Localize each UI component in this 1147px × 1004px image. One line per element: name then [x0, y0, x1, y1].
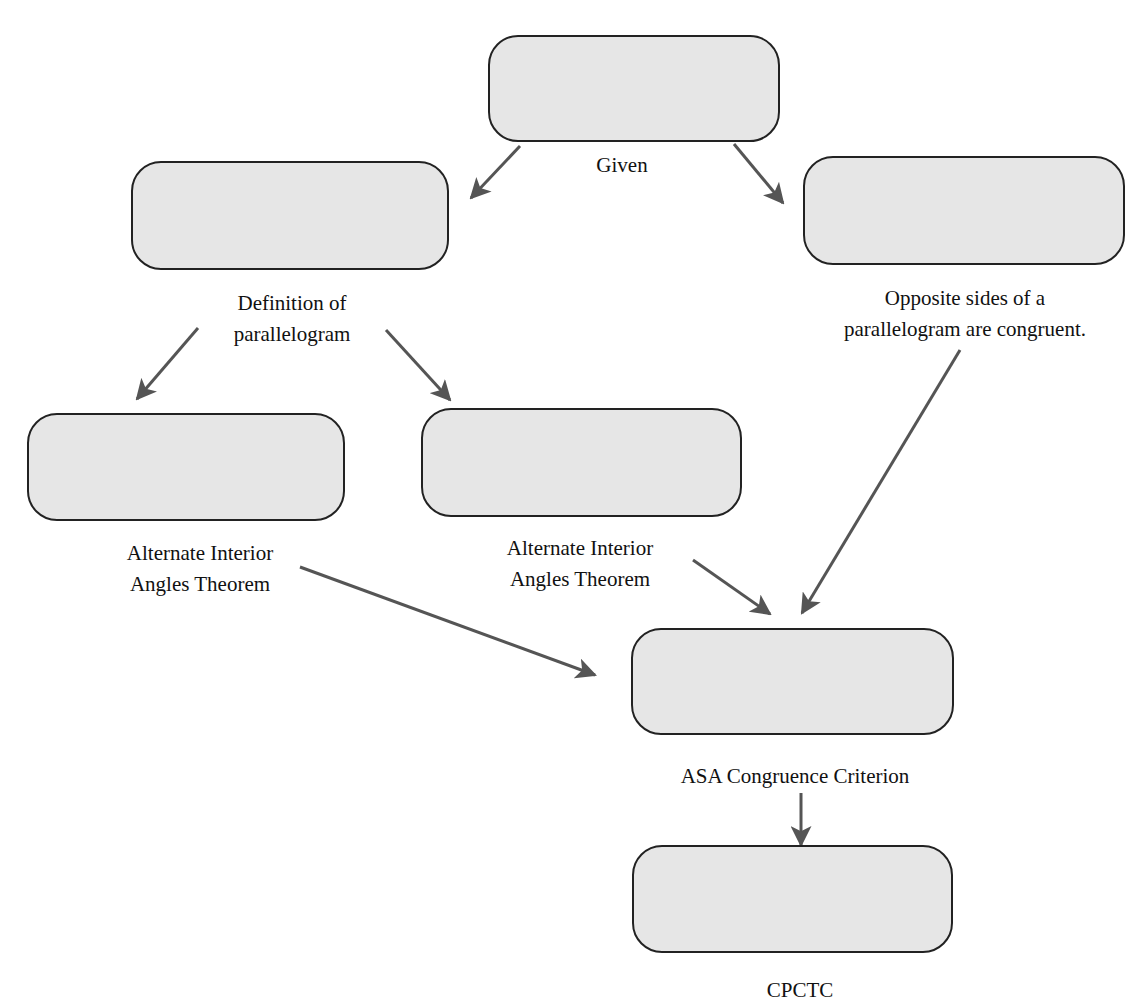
reason-line-1: Definition of [234, 288, 351, 319]
statement-box-asa[interactable] [631, 628, 954, 735]
statement-box-def-parallelogram[interactable] [131, 161, 449, 270]
arrow-def-parallelogram-to-aia-left [137, 328, 198, 399]
statement-box-cpctc[interactable] [632, 845, 953, 953]
arrow-def-parallelogram-to-aia-mid [386, 330, 450, 400]
statement-box-aia-mid[interactable] [421, 408, 742, 517]
reason-line-1: Opposite sides of a [844, 283, 1086, 314]
reason-line-2: parallelogram are congruent. [844, 314, 1086, 345]
reason-line-1: Alternate Interior [507, 533, 653, 564]
reason-line-2: parallelogram [234, 319, 351, 350]
arrow-opposite-sides-to-asa [802, 350, 960, 613]
reason-label-def-parallelogram: Definition ofparallelogram [234, 288, 351, 350]
arrow-aia-mid-to-asa [693, 560, 770, 614]
reason-label-aia-left: Alternate InteriorAngles Theorem [127, 538, 273, 600]
reason-label-aia-mid: Alternate InteriorAngles Theorem [507, 533, 653, 595]
arrow-given-to-def-parallelogram [471, 146, 520, 198]
reason-line-1: Alternate Interior [127, 538, 273, 569]
statement-box-given[interactable] [488, 35, 780, 142]
reason-label-opposite-sides: Opposite sides of aparallelogram are con… [844, 283, 1086, 345]
reason-label-given: Given [596, 150, 647, 181]
reason-label-cpctc: CPCTC [767, 975, 834, 1004]
statement-box-aia-left[interactable] [27, 413, 345, 521]
reason-line-2: Angles Theorem [127, 569, 273, 600]
arrow-given-to-opposite-sides [734, 144, 783, 203]
reason-line-2: Angles Theorem [507, 564, 653, 595]
reason-label-asa: ASA Congruence Criterion [681, 761, 910, 792]
statement-box-opposite-sides[interactable] [803, 156, 1125, 265]
